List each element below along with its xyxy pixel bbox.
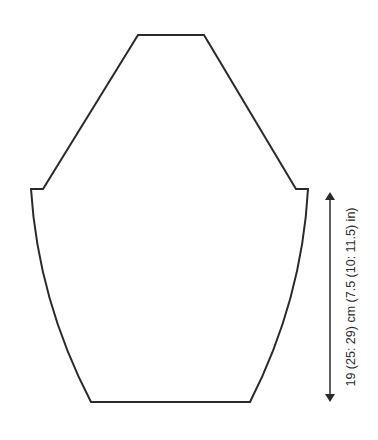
- sleeve-outline: [31, 35, 308, 402]
- sleeve-schematic: [0, 0, 378, 440]
- length-dimension-label: 19 (25: 29) cm (7.5 (10: 11.5) in): [344, 207, 358, 386]
